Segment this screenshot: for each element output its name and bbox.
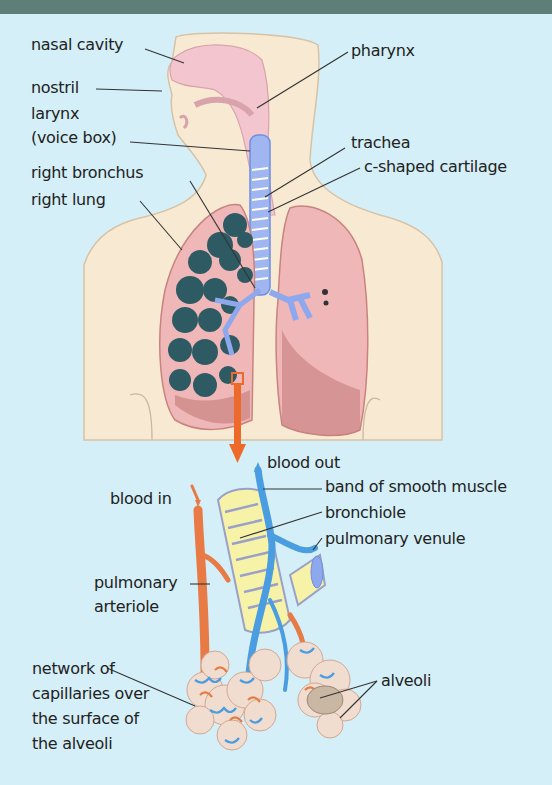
left-lung [270, 206, 368, 436]
respiratory-system-diagram: nasal cavity nostril larynx (voice box) … [0, 0, 552, 785]
label-larynx: larynx [31, 103, 79, 125]
label-voice-box: (voice box) [31, 127, 117, 149]
label-blood-out: blood out [267, 452, 340, 474]
label-bronchiole: bronchiole [325, 502, 406, 524]
blood-in-arrow [195, 500, 201, 507]
label-pulmonary-arteriole: pulmonary arteriole [94, 571, 177, 619]
label-right-lung: right lung [31, 189, 106, 211]
label-nasal-cavity: nasal cavity [31, 34, 123, 56]
label-pulmonary-venule: pulmonary venule [325, 528, 465, 550]
label-c-shaped-cartilage: c-shaped cartilage [364, 156, 507, 178]
blood-out-arrow [254, 462, 262, 472]
label-pharynx: pharynx [351, 40, 415, 62]
alveoli-clusters [186, 642, 361, 750]
label-nostril: nostril [31, 77, 79, 99]
label-blood-in: blood in [110, 488, 172, 510]
label-trachea: trachea [351, 132, 410, 154]
label-right-bronchus: right bronchus [31, 162, 143, 184]
label-band-of-smooth-muscle: band of smooth muscle [325, 476, 507, 498]
label-capillary-network: network of capillaries over the surface … [32, 656, 149, 756]
label-alveoli: alveoli [381, 670, 431, 692]
